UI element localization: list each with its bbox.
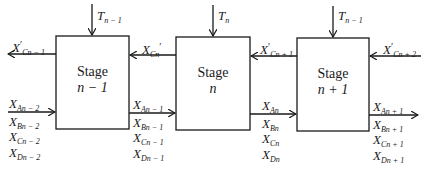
label-xd: XDn + 1 — [373, 149, 404, 167]
label-T-stage-n+1: Tn − 1 — [338, 9, 363, 27]
stage-index: n − 1 — [56, 80, 129, 96]
label-T-stage-n-1: Tn − 1 — [97, 9, 122, 27]
label-xc-out-left: X′Cn − 1 — [12, 38, 45, 59]
label-xa: XAn — [262, 99, 279, 117]
stage-index: n — [176, 81, 250, 97]
stage-title-n-1: Stage n − 1 — [56, 64, 129, 96]
stage-title-n+1: Stage n + 1 — [297, 66, 369, 98]
label-xa: XAn − 2 — [9, 97, 39, 115]
stage-label: Stage — [77, 64, 108, 79]
label-xa: XAn + 1 — [373, 100, 403, 118]
stage-title-n: Stage n — [176, 65, 250, 97]
stage-label: Stage — [317, 66, 348, 81]
label-xd: XDn — [262, 148, 280, 166]
stage-label: Stage — [197, 65, 228, 80]
label-T-stage-n: Tn — [218, 9, 229, 27]
label-xc-n-to-n-1: XCn′ — [142, 40, 161, 61]
label-xc-in-right: X′Cn + 2 — [383, 40, 416, 61]
stage-index: n + 1 — [297, 82, 369, 98]
label-xa: XAn − 1 — [133, 98, 163, 116]
label-xd: XDn − 2 — [9, 146, 40, 164]
label-xd: XDn − 1 — [133, 147, 164, 165]
label-xc-n+1-to-n: X′Cn + 1 — [260, 40, 293, 61]
